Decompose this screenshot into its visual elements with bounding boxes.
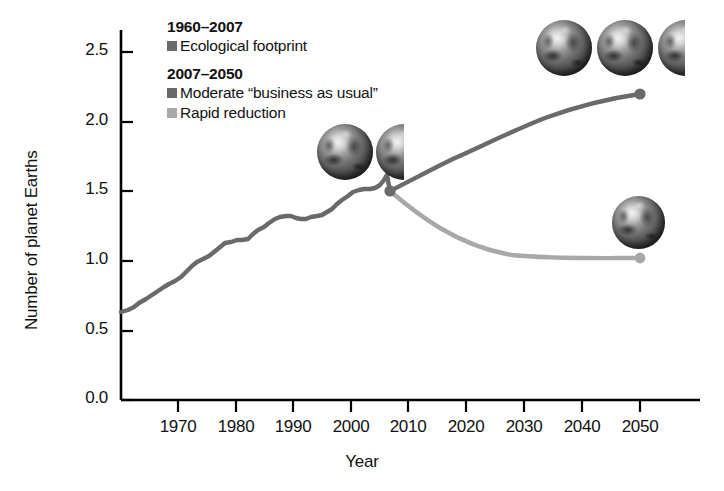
x-tick-label: 1980 — [206, 417, 266, 437]
legend-group-projection: 2007–2050 Moderate “business as usual” R… — [167, 65, 467, 123]
legend-group-title: 2007–2050 — [167, 65, 467, 83]
legend-swatch-icon — [167, 41, 177, 51]
x-tick-label: 2030 — [494, 417, 554, 437]
legend-item-moderate-business-as-usual: Moderate “business as usual” — [167, 83, 467, 103]
earth-globe-half-icon — [376, 124, 404, 180]
marker-branch-point-2007 — [384, 185, 395, 196]
x-tick-label: 2000 — [321, 417, 381, 437]
y-tick-label: 0.0 — [62, 388, 108, 408]
legend-group-historical: 1960–2007 Ecological footprint — [167, 18, 467, 56]
y-tick-label: 0.5 — [62, 319, 108, 339]
x-tick-label: 2020 — [436, 417, 496, 437]
y-tick-label: 1.5 — [62, 179, 108, 199]
legend-item-ecological-footprint: Ecological footprint — [167, 36, 467, 56]
x-axis-title: Year — [0, 452, 724, 472]
legend-item-label: Ecological footprint — [180, 36, 307, 56]
x-tick-label: 1970 — [148, 417, 208, 437]
x-tick-label: 1990 — [263, 417, 323, 437]
legend-item-rapid-reduction: Rapid reduction — [167, 103, 467, 123]
legend-item-label: Moderate “business as usual” — [180, 83, 378, 103]
x-tick-label: 2010 — [378, 417, 438, 437]
earth-globe-half-icon-clip — [376, 124, 404, 180]
y-tick-label: 1.0 — [62, 249, 108, 269]
y-axis-ticks — [121, 52, 133, 400]
earth-globe-partial-icon-clip — [658, 20, 685, 76]
x-axis-ticks — [178, 400, 640, 412]
series-line-ecological-footprint — [121, 175, 390, 312]
chart-legend: 1960–2007 Ecological footprint 2007–2050… — [167, 18, 467, 132]
x-tick-label: 2040 — [552, 417, 612, 437]
earth-globe-icon — [536, 20, 592, 76]
y-tick-label: 2.0 — [62, 110, 108, 130]
legend-item-label: Rapid reduction — [180, 103, 286, 123]
series-line-rapid-reduction — [390, 191, 640, 258]
earth-globe-icon — [597, 20, 653, 76]
legend-group-title: 1960–2007 — [167, 18, 467, 36]
x-tick-label: 2050 — [610, 417, 670, 437]
y-axis-title: Number of planet Earths — [22, 150, 42, 330]
marker-endpoint-rapid-2050 — [635, 253, 646, 264]
earth-globe-partial-icon — [658, 20, 685, 76]
legend-swatch-icon — [167, 88, 177, 98]
chart-figure: 1960–2007 Ecological footprint 2007–2050… — [0, 0, 724, 491]
earth-globe-icon — [612, 196, 665, 249]
marker-endpoint-moderate-2050 — [634, 88, 645, 99]
earth-globe-icon — [317, 124, 373, 180]
legend-swatch-icon — [167, 108, 177, 118]
y-tick-label: 2.5 — [62, 40, 108, 60]
